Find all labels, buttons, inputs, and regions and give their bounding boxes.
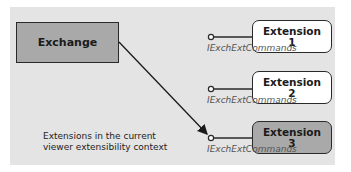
extension-2-interface-label: IExchExtCommands (207, 95, 297, 105)
extension-3-interface-label: IExchExtCommands (207, 144, 297, 154)
exchange-label: Exchange (38, 36, 98, 49)
context-caption: Extensions in the current viewer extensi… (43, 131, 167, 153)
extension-2-title: Extension (263, 77, 321, 88)
caption-line-2: viewer extensibility context (43, 142, 167, 153)
caption-line-1: Extensions in the current (43, 131, 167, 142)
extension-1-title: Extension (263, 26, 321, 37)
extension-3-title: Extension (263, 127, 321, 138)
extension-1-interface-label: IExchExtCommands (207, 43, 297, 53)
exchange-box: Exchange (16, 22, 119, 63)
